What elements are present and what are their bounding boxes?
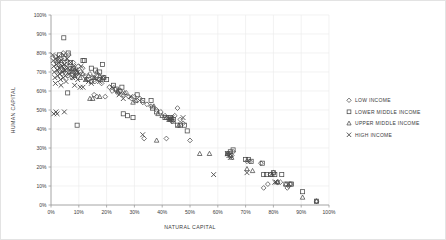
- legend-marker-triangle-icon: [347, 121, 351, 125]
- data-point: [100, 62, 104, 66]
- legend: LOW INCOMELOWER MIDDLE INCOMEUPPER MIDDL…: [347, 97, 421, 138]
- data-point: [72, 83, 77, 88]
- data-point: [81, 85, 86, 90]
- y-tick-label: 50%: [36, 107, 47, 113]
- legend-item: HIGH INCOME: [347, 132, 393, 138]
- y-tick-label: 100%: [34, 12, 47, 18]
- data-point: [197, 151, 202, 155]
- data-point: [52, 75, 57, 80]
- data-point: [59, 83, 64, 88]
- y-tick-label: 10%: [36, 183, 47, 189]
- y-tick-label: 40%: [36, 126, 47, 132]
- y-axis-title: HUMAN CAPITAL: [10, 87, 16, 133]
- axis-ticks: [49, 15, 330, 208]
- data-point: [125, 114, 129, 118]
- legend-label: LOWER MIDDLE INCOME: [355, 109, 421, 115]
- legend-label: UPPER MIDDLE INCOME: [355, 120, 420, 126]
- series-lower-middle-income: [57, 36, 318, 203]
- x-tick-label: 40%: [157, 209, 168, 215]
- y-tick-label: 20%: [36, 164, 47, 170]
- grid-lines: [51, 15, 329, 205]
- data-point: [121, 112, 125, 116]
- data-point: [135, 93, 139, 97]
- y-tick-label: 30%: [36, 145, 47, 151]
- x-tick-label: 0%: [47, 209, 55, 215]
- y-tick-label: 70%: [36, 69, 47, 75]
- data-point: [280, 173, 284, 177]
- data-point: [181, 115, 186, 120]
- data-point: [81, 59, 85, 63]
- y-tick-label: 60%: [36, 88, 47, 94]
- scatter-plot: 0%10%20%30%40%50%60%70%80%90%100% 0%10%2…: [1, 1, 446, 240]
- data-point: [185, 129, 189, 133]
- data-point: [154, 138, 159, 142]
- y-tick-label: 80%: [36, 50, 47, 56]
- chart-figure: 0%10%20%30%40%50%60%70%80%90%100% 0%10%2…: [0, 0, 446, 240]
- data-point: [82, 59, 86, 63]
- data-point: [164, 136, 169, 141]
- data-point: [178, 117, 183, 122]
- data-points: [50, 36, 319, 204]
- data-point: [62, 36, 66, 40]
- x-tick-label: 70%: [241, 209, 252, 215]
- legend-item: LOWER MIDDLE INCOME: [347, 109, 421, 115]
- data-point: [142, 136, 147, 141]
- legend-item: LOW INCOME: [347, 97, 391, 103]
- legend-item: UPPER MIDDLE INCOME: [347, 120, 420, 126]
- legend-label: HIGH INCOME: [355, 132, 393, 138]
- x-tick-label: 100%: [323, 209, 336, 215]
- data-point: [262, 173, 266, 177]
- data-point: [58, 77, 63, 82]
- data-point: [149, 98, 153, 102]
- x-tick-label: 90%: [296, 209, 307, 215]
- x-tick-label: 50%: [185, 209, 196, 215]
- data-point: [55, 111, 60, 116]
- data-point: [211, 172, 216, 177]
- legend-marker-square-icon: [347, 110, 351, 114]
- x-tick-label: 80%: [268, 209, 279, 215]
- x-tick-labels: 0%10%20%30%40%50%60%70%80%90%100%: [47, 209, 336, 215]
- x-tick-label: 30%: [129, 209, 140, 215]
- legend-marker-diamond-icon: [347, 98, 351, 102]
- data-point: [140, 132, 145, 137]
- data-point: [66, 91, 70, 95]
- data-point: [250, 168, 255, 172]
- y-tick-label: 0%: [39, 202, 47, 208]
- data-point: [89, 66, 93, 70]
- legend-label: LOW INCOME: [355, 97, 391, 103]
- data-point: [97, 94, 102, 98]
- x-tick-label: 10%: [74, 209, 85, 215]
- x-axis-title: NATURAL CAPITAL: [164, 224, 216, 230]
- data-point: [207, 151, 212, 155]
- data-point: [64, 79, 69, 84]
- data-point: [53, 81, 58, 86]
- y-tick-label: 90%: [36, 31, 47, 37]
- x-tick-label: 60%: [213, 209, 224, 215]
- y-tick-labels: 0%10%20%30%40%50%60%70%80%90%100%: [34, 12, 47, 208]
- legend-marker-x-icon: [347, 133, 351, 137]
- x-tick-label: 20%: [102, 209, 113, 215]
